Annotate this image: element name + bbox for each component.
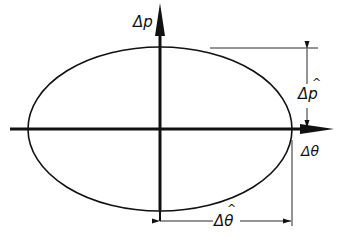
vertical-dimension-label: Δp ^: [297, 76, 321, 103]
arrowhead-up-icon: [155, 3, 165, 36]
horizontal-dimension-label: Δθ ^: [213, 202, 236, 230]
svg-text:^: ^: [312, 76, 321, 89]
svg-text:^: ^: [227, 202, 236, 215]
vertical-axis-label: Δp: [132, 13, 153, 31]
horizontal-axis-label: Δθ: [300, 143, 320, 159]
phase-ellipse-diagram: Δp Δθ Δp ^ Δθ ^: [0, 0, 350, 236]
arrowhead-right-icon: [300, 124, 334, 134]
vertical-axis: [155, 3, 165, 210]
horizontal-axis: [10, 124, 334, 134]
